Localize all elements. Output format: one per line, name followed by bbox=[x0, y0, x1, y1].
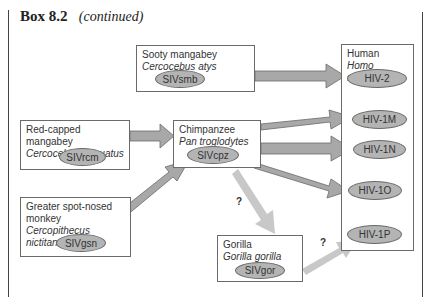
uncertain-mark-gor-hiv1p: ? bbox=[320, 237, 326, 248]
common-name-line2: monkey bbox=[26, 213, 125, 225]
common-name: Chimpanzee bbox=[179, 124, 255, 136]
virus-hiv-1p: HIV-1P bbox=[347, 225, 402, 244]
arrow-sivsmb-to-hiv2 bbox=[255, 64, 345, 88]
virus-hiv-1o: HIV-1O bbox=[348, 181, 402, 200]
arrow-sivcpz-to-hiv1n bbox=[261, 136, 352, 161]
virus-hiv-2: HIV-2 bbox=[347, 69, 407, 88]
arrow-sivcpz-to-hiv1m bbox=[261, 110, 352, 130]
common-name-line1: Greater spot-nosed bbox=[26, 201, 125, 213]
uncertain-mark-cpz-gor: ? bbox=[236, 196, 242, 207]
virus-sivsmb: SIVsmb bbox=[155, 70, 205, 88]
common-name: Human bbox=[347, 48, 408, 60]
diagram-canvas: Box 8.2 (continued) Sooty mangabey Cerco… bbox=[0, 0, 429, 297]
virus-sivgor: SIVgor bbox=[235, 262, 285, 279]
arrow-sivrcm-to-sivcpz bbox=[130, 124, 174, 148]
virus-sivgsn: SIVgsn bbox=[56, 234, 106, 252]
virus-hiv-1n: HIV-1N bbox=[353, 140, 406, 159]
common-name: Sooty mangabey bbox=[142, 49, 249, 61]
common-name: Red-capped mangabey bbox=[26, 124, 124, 148]
virus-hiv-1m: HIV-1M bbox=[352, 110, 407, 129]
virus-sivcpz: SIVcpz bbox=[187, 146, 239, 164]
arrow-sivcpz-to-hiv1o bbox=[254, 163, 349, 198]
common-name: Gorilla bbox=[223, 239, 297, 251]
virus-sivrcm: SIVrcm bbox=[59, 148, 106, 166]
arrow-sivgsn-to-sivcpz bbox=[121, 160, 189, 216]
